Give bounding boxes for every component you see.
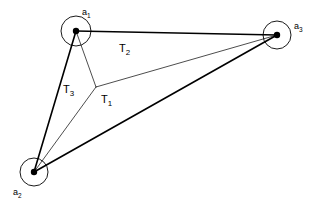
node-label-a1-subscript: 1 [87, 12, 91, 19]
geometric-diagram-figure: a1 a2 a3 T1 T2 T3 [0, 0, 321, 205]
region-label-t1-subscript: 1 [108, 99, 112, 108]
region-label-t2-main: T [119, 42, 126, 54]
region-label-t3-subscript: 3 [70, 89, 74, 98]
node-circles [20, 16, 291, 186]
edge-a1-a2 [34, 31, 76, 172]
spoke-junction-a2 [34, 87, 96, 172]
edge-a1-a3 [76, 31, 277, 35]
node-dot-a1 [73, 28, 79, 34]
node-label-a2-subscript: 2 [18, 192, 22, 199]
region-label-t1: T1 [101, 94, 112, 108]
node-dot-a2 [31, 169, 37, 175]
node-label-a1: a1 [82, 8, 91, 19]
region-label-t3: T3 [63, 84, 74, 98]
edge-a2-a3 [34, 35, 277, 172]
region-label-t3-main: T [63, 83, 70, 95]
diagram-canvas [0, 0, 321, 205]
region-label-t2: T2 [119, 43, 130, 57]
node-dot-a3 [274, 32, 280, 38]
thick-triangle-edges [34, 31, 277, 172]
region-label-t2-subscript: 2 [126, 48, 130, 57]
node-label-a3-subscript: 3 [299, 26, 303, 33]
node-label-a3: a3 [294, 22, 303, 33]
region-label-t1-main: T [101, 93, 108, 105]
node-label-a2: a2 [13, 188, 22, 199]
